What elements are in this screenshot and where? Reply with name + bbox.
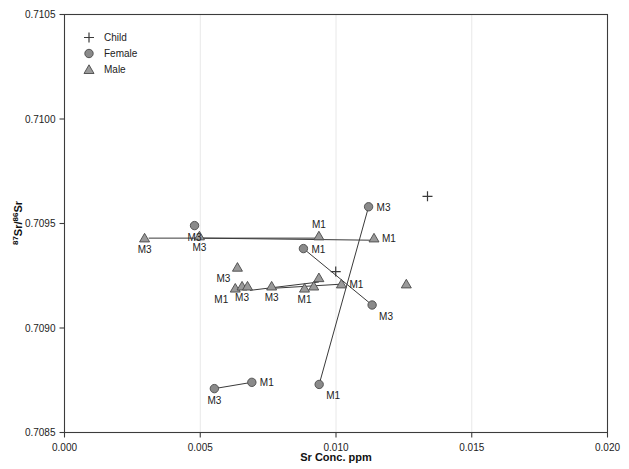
data-point-female	[248, 378, 256, 386]
connector-line	[214, 382, 251, 388]
data-point-label: M1	[349, 279, 363, 290]
data-point-label: M1	[312, 219, 326, 230]
connector-lines-group	[149, 207, 374, 389]
data-point-child	[331, 267, 341, 277]
data-point-label: M3	[207, 395, 221, 406]
data-point-label: M3	[192, 242, 206, 253]
data-point-male	[267, 281, 277, 290]
scatter-plot-figure: M3M1M3M3M3M1M1M3M3M1M1M3M1M3M3M1M1 Child…	[0, 0, 629, 469]
y-tick-label: 0.7085	[25, 427, 56, 438]
x-tick-label: 0.005	[188, 442, 213, 453]
y-tick-label: 0.7105	[25, 9, 56, 20]
data-point-male	[232, 263, 242, 272]
data-point-label: M3	[138, 244, 152, 255]
circle-marker-icon	[85, 49, 93, 57]
y-tick-label: 0.7095	[25, 218, 56, 229]
data-point-male	[300, 283, 310, 292]
triangle-marker-icon	[84, 65, 94, 74]
data-point-female	[210, 384, 218, 392]
data-point-female	[315, 380, 323, 388]
y-tick-label: 0.7100	[25, 114, 56, 125]
legend-item-male: Male	[84, 64, 126, 75]
plus-marker-icon	[84, 33, 94, 43]
data-point-label: M3	[265, 292, 279, 303]
x-axis-ticks	[65, 433, 608, 438]
data-point-label: M3	[188, 232, 202, 243]
data-point-male	[336, 279, 346, 288]
data-point-label: M1	[214, 294, 228, 305]
legend-label-male: Male	[104, 64, 126, 75]
y-axis-title: 87Sr/86Sr	[11, 200, 25, 245]
data-point-label: M1	[260, 377, 274, 388]
chart-svg: M3M1M3M3M3M1M1M3M3M1M1M3M1M3M3M1M1 Child…	[0, 0, 629, 469]
data-point-label: M1	[326, 390, 340, 401]
data-point-child	[422, 191, 432, 201]
data-point-female	[190, 221, 198, 229]
legend-label-female: Female	[104, 48, 138, 59]
data-point-female	[364, 203, 372, 211]
data-point-label: M3	[235, 292, 249, 303]
data-point-label: M1	[382, 233, 396, 244]
data-point-male	[369, 233, 379, 242]
data-point-label: M1	[311, 244, 325, 255]
gridlines-group	[200, 15, 472, 433]
data-point-male	[401, 279, 411, 288]
data-point-label: M1	[298, 294, 312, 305]
data-point-female	[299, 244, 307, 252]
legend-item-female: Female	[85, 48, 138, 59]
connector-line	[303, 249, 372, 305]
data-point-label: M3	[377, 202, 391, 213]
data-point-label: M3	[217, 273, 231, 284]
y-axis-ticks	[60, 15, 65, 433]
legend: Child Female Male	[84, 32, 138, 75]
data-point-male	[314, 273, 324, 282]
data-point-female	[368, 301, 376, 309]
x-tick-label: 0.020	[595, 442, 620, 453]
x-axis-title: Sr Conc. ppm	[300, 451, 372, 463]
legend-item-child: Child	[84, 32, 127, 43]
y-tick-label: 0.7090	[25, 323, 56, 334]
y-tick-labels: 0.70850.70900.70950.71000.7105	[25, 9, 56, 438]
data-points-group	[140, 191, 433, 392]
point-labels-group: M3M1M3M3M3M1M1M3M3M1M1M3M1M3M3M1M1	[138, 202, 397, 406]
data-point-male	[140, 233, 150, 242]
x-tick-label: 0.000	[52, 442, 77, 453]
data-point-label: M3	[379, 311, 393, 322]
legend-label-child: Child	[104, 32, 127, 43]
x-tick-label: 0.015	[459, 442, 484, 453]
data-point-male	[314, 231, 324, 240]
